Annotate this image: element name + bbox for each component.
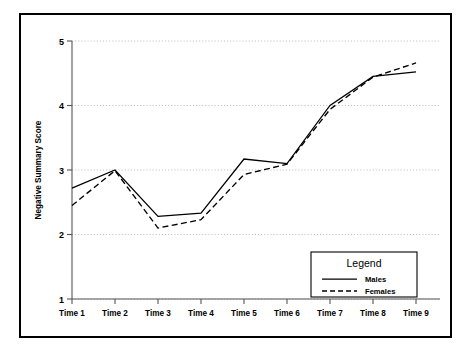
x-tick-label-9: Time 9 [403,309,429,318]
y-tick-label-3: 3 [59,166,64,176]
legend-label-males: Males [365,275,386,284]
y-tick-label-4: 4 [59,101,64,111]
x-tick-label-5: Time 5 [231,309,257,318]
x-tick-label-8: Time 8 [360,309,386,318]
x-tick-label-2: Time 2 [102,309,128,318]
x-tick-label-7: Time 7 [317,309,343,318]
legend-title: Legend [346,257,381,269]
line-chart: 5 4 3 2 1 Negative Summary Score Time 1 … [0,0,466,354]
y-tick-label-1: 1 [59,295,64,305]
y-axis: 5 4 3 2 1 Negative Summary Score [34,37,72,305]
series-line-males [72,72,416,216]
x-tick-label-1: Time 1 [59,309,85,318]
legend-label-females: Females [365,287,395,296]
figure-canvas: 5 4 3 2 1 Negative Summary Score Time 1 … [0,0,466,354]
x-tick-label-3: Time 3 [145,309,171,318]
legend: Legend Males Females [311,252,417,297]
x-tick-label-4: Time 4 [188,309,214,318]
x-tick-label-6: Time 6 [274,309,300,318]
series-line-females [72,63,416,228]
y-tick-label-5: 5 [59,37,64,47]
y-axis-title: Negative Summary Score [34,120,43,219]
y-tick-label-2: 2 [59,230,64,240]
data-series-group [72,63,416,228]
x-axis: Time 1 Time 2 Time 3 Time 4 Time 5 Time … [59,299,440,318]
